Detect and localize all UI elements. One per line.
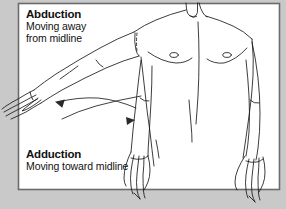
abduction-line-2: from midline	[26, 33, 86, 45]
abduction-line-1: Moving away	[26, 21, 86, 33]
abduction-label-block: Abduction Moving away from midline	[26, 8, 86, 44]
abduction-title: Abduction	[26, 8, 86, 21]
adduction-title: Adduction	[26, 148, 128, 161]
adduction-label-block: Adduction Moving toward midline	[26, 148, 128, 173]
adduction-line-1: Moving toward midline	[26, 161, 128, 173]
illustration-panel: Abduction Moving away from midline Adduc…	[0, 0, 286, 209]
